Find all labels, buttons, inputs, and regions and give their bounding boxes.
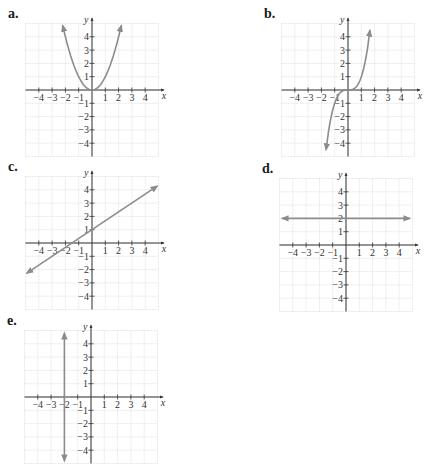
x-tick-label: −4 <box>289 92 300 103</box>
y-tick-label: −2 <box>332 266 343 277</box>
y-tick-label: −4 <box>334 138 345 149</box>
y-tick-label: −1 <box>78 98 89 109</box>
y-axis-label: y <box>339 14 345 25</box>
x-tick-label: 2 <box>115 399 120 410</box>
y-tick-label: 4 <box>338 186 343 197</box>
y-tick-label: 3 <box>338 200 343 211</box>
y-tick-label: −4 <box>78 138 89 149</box>
y-axis-label: y <box>82 321 88 332</box>
y-tick-label: 3 <box>340 45 345 56</box>
y-tick-label: −3 <box>77 431 88 442</box>
y-tick-label: 4 <box>84 184 89 195</box>
graph-panel-b: b.xy−4−3−2−112344321−1−2−3−4 <box>264 6 423 157</box>
x-tick-label: 1 <box>102 399 107 410</box>
x-tick-label: 1 <box>103 245 108 256</box>
y-tick-label: 1 <box>338 226 343 237</box>
y-tick-label: 4 <box>84 31 89 42</box>
x-tick-label: 1 <box>357 247 362 258</box>
x-tick-label: −3 <box>47 92 58 103</box>
x-tick-label: 4 <box>143 245 148 256</box>
x-tick-label: 3 <box>383 247 388 258</box>
y-tick-label: 4 <box>83 338 88 349</box>
x-tick-label: 3 <box>385 92 390 103</box>
x-axis-label: x <box>417 90 423 101</box>
y-tick-label: −3 <box>78 124 89 135</box>
x-tick-label: −3 <box>303 92 314 103</box>
graph-panel-d: d.xy−4−3−2−112344321−1−2−3−4 <box>262 161 421 312</box>
y-tick-label: 3 <box>84 45 89 56</box>
x-tick-label: 2 <box>116 245 121 256</box>
x-tick-label: −3 <box>301 247 312 258</box>
x-axis-label: x <box>415 245 421 256</box>
y-tick-label: 2 <box>84 211 89 222</box>
panel-label: b. <box>264 6 275 21</box>
panel-label: d. <box>262 161 273 176</box>
x-tick-label: −4 <box>33 92 44 103</box>
x-tick-label: 1 <box>103 92 108 103</box>
x-tick-label: 2 <box>370 247 375 258</box>
y-tick-label: 1 <box>340 71 345 82</box>
y-tick-label: 3 <box>83 352 88 363</box>
y-tick-label: 2 <box>84 58 89 69</box>
x-tick-label: −2 <box>314 247 325 258</box>
x-tick-label: 3 <box>129 245 134 256</box>
y-tick-label: −4 <box>78 291 89 302</box>
x-tick-label: 4 <box>399 92 404 103</box>
x-tick-label: 4 <box>143 92 148 103</box>
panel-label: a. <box>8 6 19 21</box>
x-tick-label: 4 <box>142 399 147 410</box>
y-tick-label: −3 <box>332 279 343 290</box>
graph-panel-a: a.xy−4−3−2−112344321−1−2−3−4 <box>8 6 167 157</box>
graphs-canvas: a.xy−4−3−2−112344321−1−2−3−4b.xy−4−3−2−1… <box>0 0 426 464</box>
x-axis-label: x <box>160 397 166 408</box>
y-tick-label: −1 <box>332 253 343 264</box>
x-tick-label: 3 <box>129 92 134 103</box>
y-tick-label: −4 <box>332 293 343 304</box>
x-tick-label: 4 <box>397 247 402 258</box>
x-tick-label: −2 <box>316 92 327 103</box>
x-axis-label: x <box>161 90 167 101</box>
y-tick-label: −2 <box>334 111 345 122</box>
y-axis-label: y <box>83 14 89 25</box>
graph-panel-e: e.xy−4−3−2−112344321−1−2−3−4 <box>7 313 166 464</box>
x-tick-label: −3 <box>46 399 57 410</box>
y-tick-label: 3 <box>84 198 89 209</box>
y-tick-label: −2 <box>78 111 89 122</box>
y-tick-label: −1 <box>77 405 88 416</box>
y-tick-label: 1 <box>83 378 88 389</box>
y-tick-label: −3 <box>334 124 345 135</box>
panel-label: e. <box>7 313 17 328</box>
y-axis-label: y <box>83 167 89 178</box>
x-tick-label: 3 <box>128 399 133 410</box>
x-tick-label: −4 <box>287 247 298 258</box>
y-tick-label: 2 <box>340 58 345 69</box>
y-tick-label: −1 <box>78 251 89 262</box>
x-tick-label: −2 <box>60 92 71 103</box>
y-tick-label: −3 <box>78 277 89 288</box>
y-tick-label: 1 <box>84 71 89 82</box>
y-tick-label: −2 <box>77 418 88 429</box>
x-tick-label: −4 <box>32 399 43 410</box>
x-tick-label: 1 <box>359 92 364 103</box>
x-tick-label: 2 <box>372 92 377 103</box>
x-axis-label: x <box>161 243 167 254</box>
y-tick-label: −2 <box>78 264 89 275</box>
y-tick-label: 4 <box>340 31 345 42</box>
y-tick-label: −4 <box>77 445 88 456</box>
x-tick-label: −4 <box>33 245 44 256</box>
y-tick-label: 2 <box>83 365 88 376</box>
graph-panel-c: c.xy−4−3−2−112344321−1−2−3−4 <box>8 159 167 310</box>
panel-label: c. <box>8 159 18 174</box>
x-tick-label: 2 <box>116 92 121 103</box>
y-axis-label: y <box>337 169 343 180</box>
